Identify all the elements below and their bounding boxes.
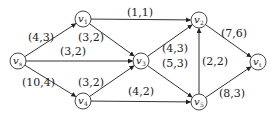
edge-label-v4-v5: (4,2) xyxy=(128,85,154,98)
edge-label-v3-v2: (4,3) xyxy=(162,42,188,55)
node-v5: v5 xyxy=(191,94,207,110)
edge-label-vs-v3: (3,2) xyxy=(60,45,86,58)
edge-label-vs-v1: (4,3) xyxy=(28,31,54,44)
edge-label-v4-v3: (3,2) xyxy=(78,76,104,89)
edge-v4-v5 xyxy=(91,101,191,102)
edge-v3-v5 xyxy=(148,66,193,97)
edge-label-v1-v3: (3,2) xyxy=(78,31,104,44)
node-subscript: 1 xyxy=(84,18,88,25)
node-subscript: 2 xyxy=(200,19,204,26)
node-vs: vs xyxy=(10,53,26,69)
node-v1: v1 xyxy=(75,11,91,27)
edge-label-v1-v2: (1,1) xyxy=(127,6,153,19)
node-v3: v3 xyxy=(133,53,149,69)
edge-label-v3-v5: (5,3) xyxy=(162,57,188,70)
node-vt: vt xyxy=(250,54,266,70)
node-subscript: s xyxy=(19,60,22,67)
node-subscript: 4 xyxy=(84,100,88,107)
node-subscript: 3 xyxy=(142,60,146,67)
edge-v1-v2 xyxy=(91,19,191,20)
node-v2: v2 xyxy=(191,12,207,28)
flow-network-diagram: (4,3)(3,2)(10,4)(3,2)(1,1)(3,2)(4,2)(4,3… xyxy=(0,0,278,119)
edge-label-v5-vt: (8,3) xyxy=(219,87,245,100)
edge-labels-layer: (4,3)(3,2)(10,4)(3,2)(1,1)(3,2)(4,2)(4,3… xyxy=(22,6,247,100)
edge-label-v5-v2: (2,2) xyxy=(202,55,228,68)
edge-label-v2-vt: (7,6) xyxy=(221,27,247,40)
edge-label-vs-v4: (10,4) xyxy=(22,76,55,89)
node-subscript: 5 xyxy=(200,101,204,108)
node-v4: v4 xyxy=(75,93,91,109)
